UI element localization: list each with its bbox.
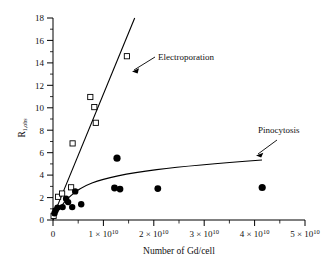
data-point-filled-circle <box>72 188 78 194</box>
y-axis-title-sub: 1,obs <box>22 118 28 132</box>
data-point-open-square <box>69 185 74 190</box>
x-tick-label-0: 0 <box>51 229 56 239</box>
x-tick-label-1e10: 1 × 1010 <box>89 228 119 239</box>
x-tick-2e10-mantissa: 2 × 10 <box>139 229 163 239</box>
x-tick-5e10-exp: 10 <box>313 228 320 235</box>
x-tick-label-4e10: 4 × 1010 <box>240 228 270 239</box>
data-point-open-square <box>124 54 129 59</box>
data-point-filled-circle <box>65 199 71 205</box>
x-tick-1e10-mantissa: 1 × 10 <box>89 229 113 239</box>
chart-figure: 0 2 4 6 8 10 12 14 16 18 R1,obs <box>0 0 335 268</box>
x-tick-label-3e10: 3 × 1010 <box>189 228 219 239</box>
data-point-open-square <box>70 141 75 146</box>
x-tick-4e10-mantissa: 4 × 10 <box>240 229 264 239</box>
data-point-filled-circle <box>78 201 84 207</box>
y-tick-label-12: 12 <box>35 81 44 91</box>
pinocytosis-series <box>51 155 266 217</box>
arrow-head-icon <box>256 153 263 158</box>
x-tick-3e10-mantissa: 3 × 10 <box>189 229 213 239</box>
electroporation-label: Electroporation <box>158 52 214 62</box>
x-tick-3e10-exp: 10 <box>212 228 219 235</box>
x-axis-title: Number of Gd/cell <box>143 246 215 256</box>
data-point-filled-circle <box>113 155 120 162</box>
scatter-plot-svg: 0 2 4 6 8 10 12 14 16 18 R1,obs <box>0 0 335 268</box>
x-tick-2e10-exp: 10 <box>162 228 169 235</box>
y-tick-label-0: 0 <box>40 215 45 225</box>
y-tick-label-4: 4 <box>40 170 45 180</box>
pinocytosis-label: Pinocytosis <box>258 125 300 135</box>
pinocytosis-annotation: Pinocytosis <box>256 125 300 158</box>
data-point-open-square <box>88 94 93 99</box>
y-axis: 0 2 4 6 8 10 12 14 16 18 <box>35 13 53 225</box>
data-point-open-square <box>92 105 97 110</box>
svg-text:R1,obs: R1,obs <box>17 118 28 138</box>
electroporation-annotation: Electroporation <box>132 52 214 73</box>
x-tick-label-2e10: 2 × 1010 <box>139 228 169 239</box>
y-tick-label-10: 10 <box>35 103 45 113</box>
y-tick-label-2: 2 <box>40 193 45 203</box>
x-tick-1e10-exp: 10 <box>112 228 119 235</box>
x-axis: 0 1 × 1010 2 × 1010 3 × 1010 4 × 1010 5 … <box>51 220 320 239</box>
y-axis-title: R1,obs <box>17 118 28 138</box>
electroporation-series <box>51 54 130 219</box>
data-point-filled-circle <box>154 185 161 192</box>
data-point-open-square <box>93 120 98 125</box>
data-point-filled-circle <box>59 204 65 210</box>
data-point-filled-circle <box>69 204 75 210</box>
data-point-filled-circle <box>259 184 266 191</box>
y-tick-label-6: 6 <box>40 148 45 158</box>
data-point-filled-circle <box>117 186 124 193</box>
x-tick-5e10-mantissa: 5 × 10 <box>290 229 314 239</box>
y-tick-label-18: 18 <box>35 13 45 23</box>
y-tick-label-14: 14 <box>35 58 45 68</box>
y-tick-label-16: 16 <box>35 36 45 46</box>
data-point-open-square <box>60 191 65 196</box>
y-tick-label-8: 8 <box>40 126 45 136</box>
x-tick-label-5e10: 5 × 1010 <box>290 228 320 239</box>
x-tick-4e10-exp: 10 <box>263 228 270 235</box>
